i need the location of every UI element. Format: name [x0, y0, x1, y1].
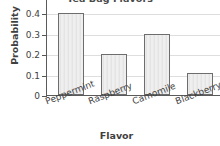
chart-title: Tea Bag Flavors	[0, 0, 220, 4]
x-axis-title: Flavor	[30, 130, 203, 141]
x-tick-labels-group: PeppermintRaspberryCamomileBlackberry	[47, 97, 220, 129]
y-tick-label: 0.1	[26, 71, 40, 80]
plot-area: 00.10.20.30.4	[47, 6, 220, 96]
y-tick-label: 0.3	[26, 30, 40, 39]
y-tick-label: 0.4	[26, 10, 40, 19]
y-tick-label: 0.2	[26, 51, 40, 60]
bar-chart-figure: Tea Bag Flavors Probability 00.10.20.30.…	[0, 0, 220, 146]
y-tick-label: 0	[34, 92, 40, 101]
y-axis-title: Probability	[9, 0, 20, 76]
y-axis-line	[46, 0, 47, 96]
